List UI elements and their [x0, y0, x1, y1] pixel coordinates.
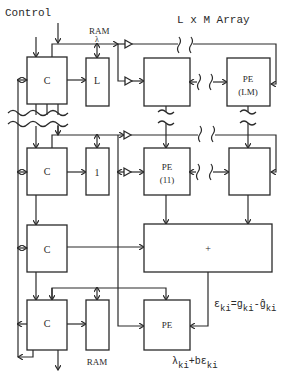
buffer-icon	[124, 168, 131, 176]
c-block-3-label: C	[44, 244, 51, 255]
break-icon	[210, 164, 213, 180]
control-label: Control	[5, 7, 51, 19]
ram-top-label: RAM	[89, 26, 110, 36]
array-title: L x M Array	[177, 14, 250, 26]
c4-bus	[52, 288, 166, 300]
pe-lm-label-1: PE	[243, 74, 254, 84]
l-block-label: L	[94, 75, 100, 86]
adder-to-pe-feedback	[190, 272, 208, 326]
pe-bottom-label: PE	[162, 320, 173, 330]
lambda-top-label: λ	[95, 35, 99, 44]
top-bus	[52, 44, 118, 57]
buffer-icon	[125, 77, 132, 85]
update-equation: λki+bεki	[172, 356, 218, 371]
buffer-icon	[124, 131, 131, 139]
row-break-waves	[8, 104, 256, 148]
pe-11-label-2: (11)	[160, 175, 175, 185]
error-equation: εki=gki-ĝki	[214, 299, 276, 314]
break-icon	[190, 37, 193, 53]
break-icon	[197, 164, 200, 180]
one-block-label: 1	[95, 167, 100, 178]
c-block-4-label: C	[44, 318, 51, 329]
c-block-1-label: C	[44, 75, 51, 86]
block-diagram: Control RAM λ L x M Array C L PE (LM)	[0, 0, 288, 376]
c-block-2-label: C	[44, 166, 51, 177]
ram-block	[86, 300, 109, 350]
bus-to-pe-bottom	[118, 268, 144, 326]
break-icon	[198, 74, 201, 90]
ram-bottom-label: RAM	[87, 357, 108, 367]
pe-11-label-1: PE	[162, 162, 173, 172]
break-icon	[210, 74, 213, 90]
break-icon	[178, 37, 181, 53]
adder-label: +	[205, 243, 211, 254]
svg-text:λki+bεki: λki+bεki	[172, 356, 218, 371]
row2-bus	[52, 135, 124, 148]
buffer-icon	[125, 40, 132, 48]
bus-branch	[118, 44, 125, 81]
c4-loop-out	[18, 350, 33, 357]
svg-text:εki=gki-ĝki: εki=gki-ĝki	[214, 299, 276, 314]
pe-block-top-left	[144, 58, 190, 106]
pe-block-row2-right	[229, 148, 270, 195]
pe-lm-label-2: (LM)	[238, 87, 258, 97]
